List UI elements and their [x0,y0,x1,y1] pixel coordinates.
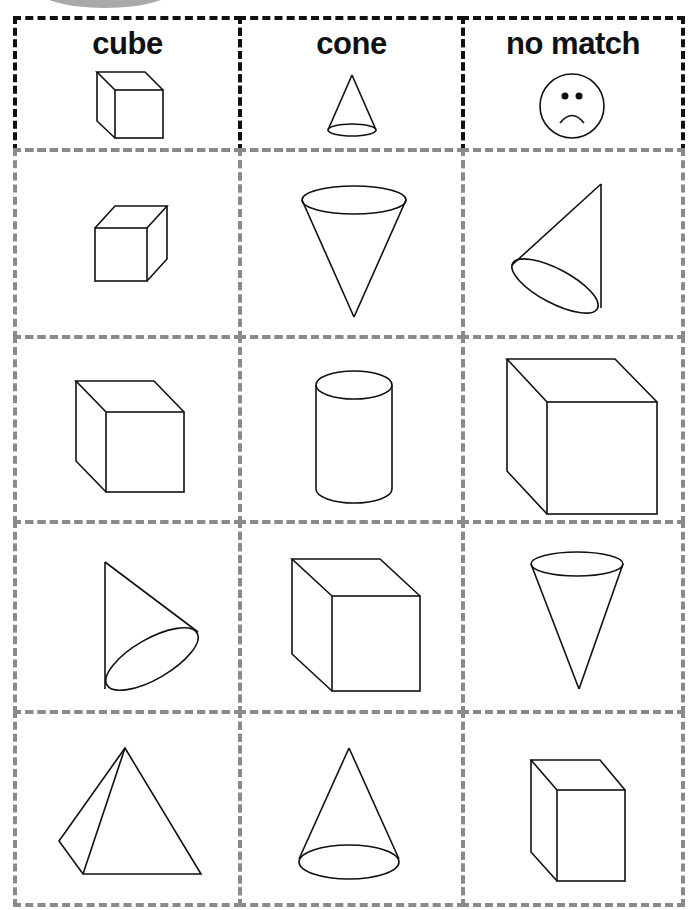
shape-cell[interactable] [238,335,465,524]
cube-icon [17,152,246,343]
inverted-cone-icon [242,152,469,343]
shape-cell[interactable] [461,520,685,714]
cone-icon [242,714,469,910]
header-cube: cube [13,16,242,152]
cylinder-icon [242,339,469,528]
cone-icon [242,20,469,156]
tilted-cone-icon [465,152,689,343]
shape-cell[interactable] [238,710,465,907]
shape-cell[interactable] [461,710,685,907]
shape-cell[interactable] [238,148,465,339]
sad-face-icon [465,20,689,156]
shape-cell[interactable] [13,148,242,339]
shape-cell[interactable] [238,520,465,714]
tilted-cone-icon [17,524,246,718]
cube-icon [17,20,246,156]
header-no-match: no match [461,16,685,152]
cube-icon [242,524,469,718]
shape-cell[interactable] [13,520,242,714]
shape-cell[interactable] [461,148,685,339]
shape-cell[interactable] [13,335,242,524]
shape-cell[interactable] [461,335,685,524]
cube-icon [17,339,246,528]
cube-icon [465,714,689,910]
cube-icon [465,339,689,528]
inverted-cone-icon [465,524,689,718]
decorative-arc [30,0,180,8]
shape-cell[interactable] [13,710,242,907]
pyramid-icon [17,714,246,910]
header-cone: cone [238,16,465,152]
